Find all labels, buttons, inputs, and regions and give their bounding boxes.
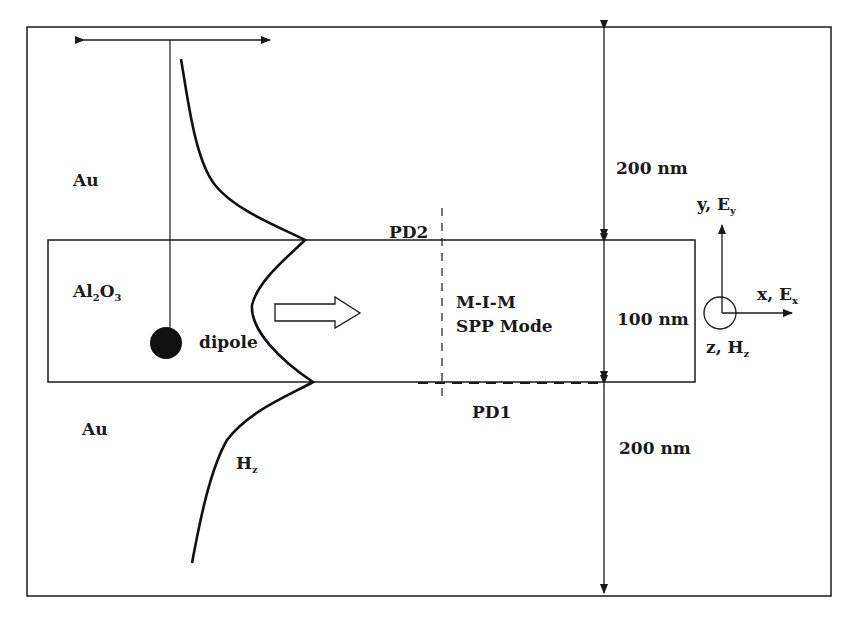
pd1-label: PD1 xyxy=(472,404,511,421)
dim-middle-label: 100 nm xyxy=(617,311,689,328)
bottom-au-label: Au xyxy=(82,421,108,438)
x-axis-sub: x xyxy=(792,295,798,306)
z-axis-label: z, Hz xyxy=(706,339,749,359)
al2o3-sub2: 3 xyxy=(114,292,121,303)
y-axis-label: y, Ey xyxy=(697,196,736,216)
top-au-label: Au xyxy=(73,172,99,189)
x-axis-text: x, E xyxy=(757,284,792,304)
mode-label-line2: SPP Mode xyxy=(456,318,553,335)
hz-sub: z xyxy=(252,464,258,475)
dipole-source-icon xyxy=(150,327,182,359)
al2o3-label: Al2O3 xyxy=(73,283,121,303)
al2o3-o: O xyxy=(100,281,115,301)
pd2-label: PD2 xyxy=(389,224,428,241)
hz-label: Hz xyxy=(236,455,258,475)
al2o3-sub1: 2 xyxy=(93,292,100,303)
dim-bottom-label: 200 nm xyxy=(619,440,691,457)
dim-top-label: 200 nm xyxy=(616,160,688,177)
insulator-layer xyxy=(48,240,695,382)
simulation-boundary xyxy=(27,27,831,596)
x-axis-label: x, Ex xyxy=(757,286,798,306)
y-axis-text: y, E xyxy=(697,194,730,214)
z-axis-text: z, H xyxy=(706,337,744,357)
dipole-label: dipole xyxy=(199,334,258,351)
hz-text: H xyxy=(236,453,252,473)
propagation-arrow-icon xyxy=(275,297,360,328)
z-axis-sub: z xyxy=(744,348,750,359)
al2o3-text: Al xyxy=(73,281,93,301)
diagram-canvas xyxy=(0,0,861,623)
mode-label-line1: M-I-M xyxy=(456,294,516,311)
y-axis-sub: y xyxy=(730,205,736,216)
